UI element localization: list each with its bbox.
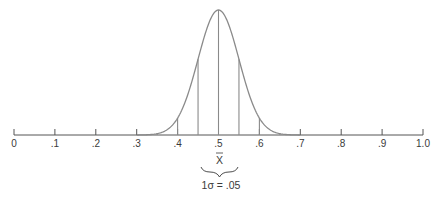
x-tick-label: .8 bbox=[337, 138, 346, 149]
normal-distribution-diagram: 0.1.2.3.4.5.6.7.8.91.0 X 1σ = .05 bbox=[0, 0, 440, 198]
x-tick-label: .5 bbox=[214, 138, 223, 149]
mean-symbol: X bbox=[216, 154, 223, 166]
sd-label: 1σ = .05 bbox=[202, 179, 241, 191]
brace-icon bbox=[201, 167, 238, 177]
mean-annotation: X 1σ = .05 bbox=[201, 153, 241, 191]
x-tick-label: .6 bbox=[255, 138, 264, 149]
x-tick-label: .2 bbox=[92, 138, 101, 149]
x-tick-label: .4 bbox=[173, 138, 182, 149]
x-tick-label: .1 bbox=[51, 138, 60, 149]
x-tick-label: .9 bbox=[378, 138, 387, 149]
standard-deviation-lines bbox=[157, 10, 280, 135]
x-tick-label: 0 bbox=[11, 138, 17, 149]
x-axis-tick-labels: 0.1.2.3.4.5.6.7.8.91.0 bbox=[11, 138, 430, 149]
x-tick-label: .3 bbox=[133, 138, 142, 149]
x-tick-label: 1.0 bbox=[416, 138, 430, 149]
x-tick-label: .7 bbox=[296, 138, 305, 149]
